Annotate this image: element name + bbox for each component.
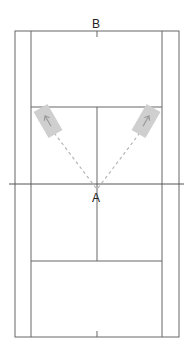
court-drawing	[0, 0, 189, 355]
right-trajectory	[98, 134, 139, 188]
label-a: A	[92, 192, 100, 204]
left-target-zone	[34, 104, 63, 138]
tennis-court-diagram: B A	[0, 0, 189, 355]
label-b: B	[92, 18, 100, 30]
left-trajectory	[55, 134, 96, 188]
right-target-zone	[132, 104, 161, 138]
